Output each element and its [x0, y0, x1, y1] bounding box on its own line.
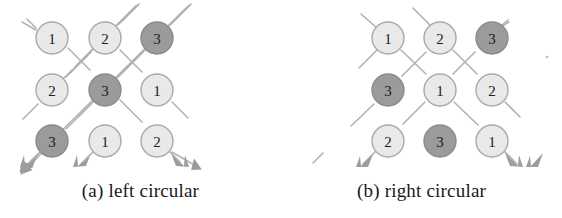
node-group-row-1: 1 2 3 [36, 22, 173, 54]
node-label: 2 [384, 134, 392, 150]
arrowhead-icon [20, 153, 38, 167]
node-label: 3 [436, 134, 444, 150]
node-label: 2 [436, 31, 444, 47]
node-label: 1 [488, 134, 496, 150]
arrowhead-icon [526, 153, 543, 167]
node-group-row-2: 2 3 1 [36, 74, 173, 106]
node-label: 2 [153, 134, 161, 150]
figure-root: 1 2 3 2 3 1 3 [0, 0, 562, 218]
diagram-right-circular: 1 2 3 3 1 2 2 [281, 0, 562, 176]
caption-right-circular: (b) right circular [281, 176, 562, 206]
node-label: 1 [384, 31, 392, 47]
arrowhead-icon [73, 153, 91, 167]
node-group-row-2: 3 1 2 [372, 74, 508, 106]
node-group-row-3: 2 3 1 [372, 125, 508, 157]
node-label: 2 [101, 31, 109, 47]
scan-speck [546, 56, 549, 59]
node-label: 3 [488, 31, 496, 47]
node-label: 3 [153, 31, 161, 47]
node-label: 1 [101, 134, 109, 150]
node-label: 2 [488, 83, 496, 99]
node-label: 1 [436, 83, 444, 99]
node-label: 3 [384, 83, 392, 99]
node-group-row-3: 3 1 2 [36, 125, 173, 157]
node-group-row-1: 1 2 3 [372, 22, 508, 54]
node-label: 3 [48, 134, 56, 150]
node-label: 2 [48, 83, 56, 99]
caption-left-circular: (a) left circular [0, 176, 281, 206]
node-label: 3 [101, 83, 109, 99]
node-label: 1 [48, 31, 56, 47]
diagram-left-circular: 1 2 3 2 3 1 3 [0, 0, 281, 176]
panel-right-circular: 1 2 3 3 1 2 2 [281, 0, 562, 218]
node-label: 1 [153, 83, 161, 99]
panel-left-circular: 1 2 3 2 3 1 3 [0, 0, 281, 218]
